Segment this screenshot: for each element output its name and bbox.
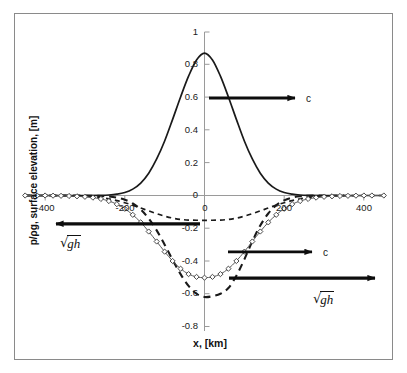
- annotation-label-c-bottom: c: [323, 247, 328, 258]
- y-tick-label-0.6: 0.6: [170, 91, 198, 102]
- x-tick-label-400: 400: [344, 202, 384, 213]
- y-tick-label--0.4: -0.4: [170, 255, 198, 266]
- data-point-marker: [381, 193, 386, 198]
- data-point-marker: [369, 193, 374, 198]
- data-point-marker: [58, 193, 63, 198]
- y-tick-label--0.6: -0.6: [170, 287, 198, 298]
- annotation-label-sqrt-gh-right: √gh: [313, 291, 334, 307]
- data-point-marker: [74, 194, 79, 199]
- annotation-label-sqrt-gh-left: √gh: [60, 235, 81, 251]
- data-point-marker: [66, 193, 71, 198]
- x-tick-label-200: 200: [264, 202, 304, 213]
- radicand-gh: gh: [320, 291, 334, 307]
- data-point-marker: [337, 193, 342, 198]
- data-point-marker: [361, 193, 366, 198]
- y-tick-label-0.2: 0.2: [170, 157, 198, 168]
- y-tick-label--0.8: -0.8: [170, 320, 198, 331]
- radicand-gh: gh: [67, 235, 81, 251]
- data-point-marker: [345, 193, 350, 198]
- y-tick-label-1: 1: [170, 26, 198, 37]
- data-point-marker: [50, 193, 55, 198]
- y-tick-label--0.2: -0.2: [170, 222, 198, 233]
- x-tick-label-0: 0: [185, 202, 225, 213]
- y-axis-ticks: [205, 32, 210, 327]
- data-point-marker: [186, 272, 191, 277]
- data-point-marker: [353, 193, 358, 198]
- x-tick-label--200: -200: [105, 202, 145, 213]
- y-tick-label-0: 0: [170, 189, 198, 200]
- y-tick-label-0.4: 0.4: [170, 124, 198, 135]
- y-axis-title: p/ρg, surface elevation, [m]: [28, 86, 39, 276]
- chart-figure: 1 0.8 0.6 0.4 0.2 0 -0.2 -0.4 -0.6 -0.8 …: [0, 0, 407, 373]
- y-tick-label-0.8: 0.8: [170, 58, 198, 69]
- data-point-marker: [210, 274, 215, 279]
- data-point-marker: [218, 272, 223, 277]
- data-point-marker: [194, 274, 199, 279]
- plot-canvas: [0, 0, 407, 373]
- x-axis-title: x, [km]: [120, 337, 300, 349]
- annotation-label-c-top: c: [306, 93, 311, 104]
- data-point-marker: [202, 275, 207, 280]
- data-point-marker: [43, 193, 48, 198]
